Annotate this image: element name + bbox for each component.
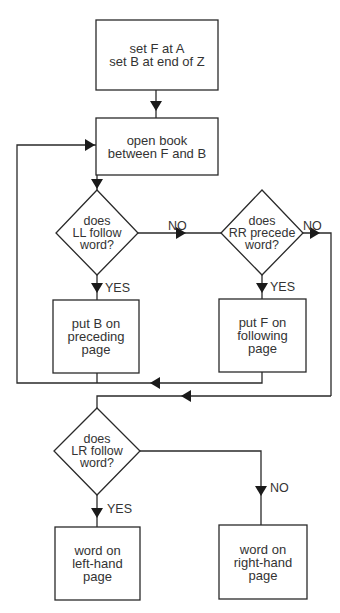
arrow-down-icon	[255, 486, 267, 496]
arrow-down-icon	[150, 101, 162, 111]
label-rr-no: NO	[303, 220, 322, 233]
node-put-b-text: put B on preceding page	[53, 300, 139, 373]
label-ll-no: NO	[168, 220, 187, 233]
edge-qlr-right	[140, 451, 261, 525]
arrow-right-icon	[85, 139, 95, 151]
arrow-left-icon	[181, 390, 191, 402]
arrow-down-icon	[91, 508, 103, 518]
node-put-f-text: put F on following page	[219, 299, 306, 372]
arrow-down-icon	[256, 283, 268, 293]
edge-rail-qlr	[97, 396, 331, 408]
node-open-text: open book between F and B	[96, 118, 218, 175]
node-start-text: set F at A set B at end of Z	[96, 20, 218, 90]
arrow-left-icon	[150, 377, 160, 389]
node-q-lr-text: does LR follow word?	[54, 426, 140, 476]
arrow-down-icon	[91, 179, 103, 189]
node-q-ll-text: does LL follow word?	[56, 208, 138, 258]
label-ll-yes: YES	[105, 282, 130, 295]
label-lr-yes: YES	[107, 503, 132, 516]
node-right-text: word on right-hand page	[219, 525, 307, 599]
node-left-text: word on left-hand page	[55, 527, 140, 600]
arrow-down-icon	[91, 283, 103, 293]
label-rr-yes: YES	[270, 281, 295, 294]
edge-qrr-no	[303, 233, 331, 396]
label-lr-no: NO	[270, 482, 289, 495]
node-q-rr-text: does RR precede word?	[218, 208, 306, 258]
